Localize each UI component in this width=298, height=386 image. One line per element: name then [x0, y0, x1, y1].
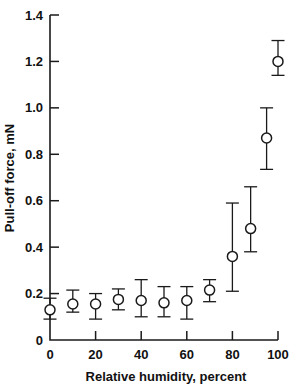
- chart-background: [0, 0, 298, 386]
- data-point-marker: [262, 133, 272, 143]
- data-point-marker: [159, 298, 169, 308]
- data-point-marker: [205, 285, 215, 295]
- y-tick-label: 1.4: [25, 8, 44, 23]
- x-axis-title: Relative humidity, percent: [86, 369, 248, 384]
- data-point-marker: [45, 305, 55, 315]
- data-point-marker: [246, 224, 256, 234]
- x-tick-label: 60: [180, 347, 194, 362]
- data-point-marker: [227, 251, 237, 261]
- y-axis-title: Pull-off force, mN: [2, 124, 17, 232]
- x-tick-label: 40: [134, 347, 148, 362]
- y-tick-label: 0.4: [25, 240, 44, 255]
- x-tick-label: 20: [88, 347, 102, 362]
- data-point-marker: [273, 56, 283, 66]
- data-point-marker: [91, 299, 101, 309]
- y-tick-label: 1.0: [25, 100, 43, 115]
- y-tick-label: 0: [36, 333, 43, 348]
- x-tick-label: 100: [267, 347, 289, 362]
- pull-off-force-scatter-chart: 00.20.40.60.81.01.21.4 020406080100 Rela…: [0, 0, 298, 386]
- y-tick-label: 1.2: [25, 54, 43, 69]
- y-tick-label: 0.6: [25, 193, 43, 208]
- y-tick-label: 0.2: [25, 286, 43, 301]
- chart-figure: 00.20.40.60.81.01.21.4 020406080100 Rela…: [0, 0, 298, 386]
- x-tick-label: 80: [225, 347, 239, 362]
- y-tick-label: 0.8: [25, 147, 43, 162]
- data-point-marker: [182, 296, 192, 306]
- data-point-marker: [68, 299, 78, 309]
- data-point-marker: [136, 296, 146, 306]
- x-tick-label: 0: [46, 347, 53, 362]
- data-point-marker: [113, 294, 123, 304]
